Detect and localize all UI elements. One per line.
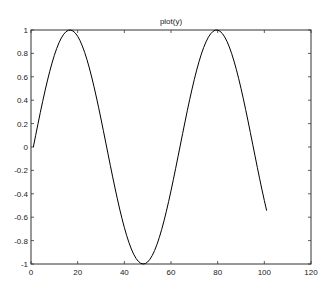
y-tick-label: 0.2	[17, 120, 29, 129]
y-tick-label: 1	[24, 26, 29, 35]
x-tick-label: 100	[258, 268, 272, 277]
x-axis: 020406080100120	[29, 30, 318, 277]
axes-box	[31, 30, 311, 264]
x-tick-label: 80	[213, 268, 222, 277]
x-tick-label: 60	[167, 268, 176, 277]
y-tick-label: 0.6	[17, 73, 29, 82]
x-tick-label: 120	[304, 268, 318, 277]
y-axis: -1-0.8-0.6-0.4-0.200.20.40.60.81	[14, 26, 311, 269]
y-tick-label: -0.2	[14, 166, 28, 175]
chart-title: plot(y)	[160, 17, 183, 26]
y-tick-label: -0.8	[14, 237, 28, 246]
data-line	[33, 30, 266, 264]
y-tick-label: -1	[21, 260, 29, 269]
y-tick-label: 0	[24, 143, 29, 152]
y-tick-label: 0.4	[17, 96, 29, 105]
x-tick-label: 20	[73, 268, 82, 277]
y-tick-label: -0.6	[14, 213, 28, 222]
y-tick-label: 0.8	[17, 49, 29, 58]
x-tick-label: 40	[120, 268, 129, 277]
line-chart: plot(y) 020406080100120 -1-0.8-0.6-0.4-0…	[0, 0, 334, 292]
x-tick-label: 0	[29, 268, 34, 277]
y-tick-label: -0.4	[14, 190, 28, 199]
